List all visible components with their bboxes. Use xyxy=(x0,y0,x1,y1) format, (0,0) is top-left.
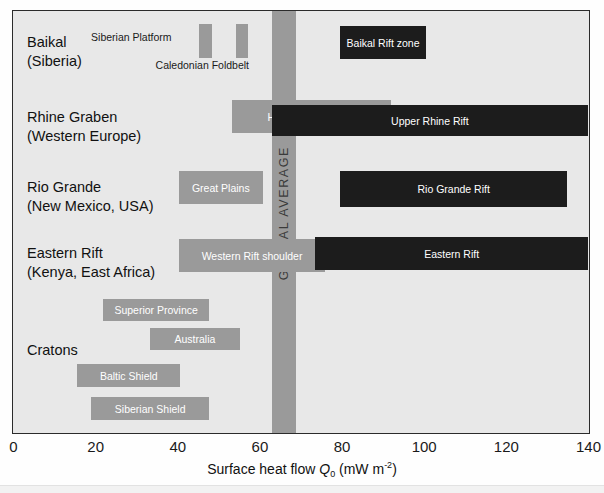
bar-baikal-rift-zone[interactable]: Baikal Rift zone xyxy=(340,26,425,59)
bar-australia[interactable]: Australia xyxy=(150,328,240,350)
row-label-baikal: Baikal (Siberia) xyxy=(27,33,82,71)
bar-great-plains[interactable]: Great Plains xyxy=(179,171,263,204)
row-label-rhine-graben: Rhine Graben (Western Europe) xyxy=(27,108,141,146)
bar-label-eastern-rift: Eastern Rift xyxy=(418,248,485,260)
bar-eastern-rift[interactable]: Eastern Rift xyxy=(315,237,588,270)
heat-flow-chart-figure: GLOBAL AVERAGE Baikal (Siberia) Siberian… xyxy=(0,0,604,493)
plot-area: GLOBAL AVERAGE Baikal (Siberia) Siberian… xyxy=(12,10,590,434)
x-tick-label-20: 20 xyxy=(87,438,104,455)
x-axis-title-units-close: ) xyxy=(392,461,397,477)
x-tick-label-80: 80 xyxy=(334,438,351,455)
bar-label-baltic-shield: Baltic Shield xyxy=(94,370,164,382)
bar-siberian-platform[interactable] xyxy=(199,24,212,58)
bar-caledonian-foldbelt[interactable] xyxy=(236,24,248,58)
row-label-eastern-rift-line1: Eastern Rift xyxy=(27,244,155,263)
x-axis-title-units-open: (mW m xyxy=(335,461,384,477)
x-tick-label-100: 100 xyxy=(412,438,437,455)
bar-label-western-rift-shoulder: Western Rift shoulder xyxy=(196,250,309,262)
row-label-rio-grande-line2: (New Mexico, USA) xyxy=(27,197,154,216)
x-axis-title-symbol: Q xyxy=(319,461,330,477)
bar-superior-province[interactable]: Superior Province xyxy=(103,299,209,321)
bar-label-upper-rhine-rift: Upper Rhine Rift xyxy=(385,115,475,127)
row-label-cratons-line1: Cratons xyxy=(27,341,78,360)
x-tick-label-0: 0 xyxy=(9,438,17,455)
row-label-rio-grande-line1: Rio Grande xyxy=(27,178,154,197)
bar-label-siberian-shield: Siberian Shield xyxy=(109,403,192,415)
x-axis-title: Surface heat flow Q0 (mW m-2) xyxy=(0,460,604,479)
bar-rio-grande-rift[interactable]: Rio Grande Rift xyxy=(340,171,567,207)
row-label-eastern-rift: Eastern Rift (Kenya, East Africa) xyxy=(27,244,155,282)
x-axis-title-prefix: Surface heat flow xyxy=(207,461,319,477)
x-tick-label-120: 120 xyxy=(494,438,519,455)
global-average-label-wrap: GLOBAL AVERAGE xyxy=(272,11,297,433)
bar-label-rio-grande-rift: Rio Grande Rift xyxy=(411,183,495,195)
bar-upper-rhine-rift[interactable]: Upper Rhine Rift xyxy=(272,105,588,136)
x-tick-label-140: 140 xyxy=(576,438,601,455)
x-tick-label-60: 60 xyxy=(252,438,269,455)
bar-label-caledonian-foldbelt: Caledonian Foldbelt xyxy=(156,59,249,71)
bar-baltic-shield[interactable]: Baltic Shield xyxy=(77,364,180,387)
bottom-strip xyxy=(0,485,604,493)
bar-label-siberian-platform: Siberian Platform xyxy=(91,31,172,43)
global-average-band: GLOBAL AVERAGE xyxy=(272,11,297,433)
bar-western-rift-shoulder[interactable]: Western Rift shoulder xyxy=(179,239,325,272)
bar-label-baikal-rift-zone: Baikal Rift zone xyxy=(341,37,426,49)
row-label-cratons: Cratons xyxy=(27,341,78,360)
row-label-rio-grande: Rio Grande (New Mexico, USA) xyxy=(27,178,154,216)
bar-siberian-shield[interactable]: Siberian Shield xyxy=(91,397,208,420)
bar-label-australia: Australia xyxy=(169,333,222,345)
row-label-eastern-rift-line2: (Kenya, East Africa) xyxy=(27,263,155,282)
row-label-baikal-line2: (Siberia) xyxy=(27,52,82,71)
x-axis-title-units-exponent: -2 xyxy=(384,460,392,470)
bar-label-superior-province: Superior Province xyxy=(108,304,203,316)
row-label-baikal-line1: Baikal xyxy=(27,33,82,52)
row-label-rhine-graben-line1: Rhine Graben xyxy=(27,108,141,127)
bar-label-great-plains: Great Plains xyxy=(186,182,256,194)
row-label-rhine-graben-line2: (Western Europe) xyxy=(27,127,141,146)
x-tick-label-40: 40 xyxy=(169,438,186,455)
